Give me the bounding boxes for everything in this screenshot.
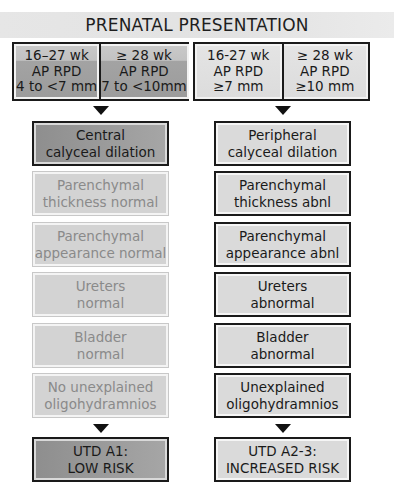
box-parenchymal-thickness-normal: Parenchymal thickness normal <box>32 171 169 216</box>
box-line: Unexplained <box>240 379 324 396</box>
criteria-group-low-risk: 16–27 wk AP RPD 4 to <7 mm ≥ 28 wk AP RP… <box>12 42 189 101</box>
box-line: Central <box>76 127 125 144</box>
cell-line: ≥7 mm <box>213 79 264 95</box>
box-line: thickness normal <box>43 194 158 211</box>
cell-line: AP RPD <box>119 64 169 80</box>
box-line: Ureters <box>76 278 126 295</box>
box-line: calyceal dilation <box>228 144 338 161</box>
box-line: appearance normal <box>35 245 167 262</box>
box-line: Parenchymal <box>239 177 326 194</box>
cell-line: ≥ 28 wk <box>297 48 353 64</box>
box-ureters-abnormal: Ureters abnormal <box>214 272 351 317</box>
page-title: PRENATAL PRESENTATION <box>0 12 394 38</box>
cell-line: 7 to <10mm <box>101 79 187 95</box>
box-line: Parenchymal <box>239 228 326 245</box>
box-parenchymal-thickness-abnl: Parenchymal thickness abnl <box>214 171 351 216</box>
criteria-cell-16-27wk-high: 16-27 wk AP RPD ≥7 mm <box>195 44 282 99</box>
box-unexplained-oligohydramnios: Unexplained oligohydramnios <box>214 373 351 418</box>
box-line: thickness abnl <box>234 194 331 211</box>
cell-line: AP RPD <box>213 64 263 80</box>
arrow-down-icon <box>93 106 109 115</box>
box-line: UTD A2-3: <box>248 443 317 460</box>
box-line: calyceal dilation <box>46 144 156 161</box>
box-no-unexplained-oligohydramnios: No unexplained oligohydramnios <box>32 373 169 418</box>
box-parenchymal-appearance-normal: Parenchymal appearance normal <box>32 222 169 267</box>
box-line: appearance abnl <box>226 245 340 262</box>
box-line: UTD A1: <box>73 443 128 460</box>
criteria-cell-28wk-low: ≥ 28 wk AP RPD 7 to <10mm <box>101 44 189 99</box>
box-line: Parenchymal <box>57 177 144 194</box>
cell-line: ≥10 mm <box>295 79 354 95</box>
box-line: LOW RISK <box>67 460 133 477</box>
box-ureters-normal: Ureters normal <box>32 272 169 317</box>
cell-line: 4 to <7 mm <box>16 79 97 95</box>
box-line: INCREASED RISK <box>226 460 339 477</box>
box-parenchymal-appearance-abnl: Parenchymal appearance abnl <box>214 222 351 267</box>
box-bladder-abnormal: Bladder abnormal <box>214 323 351 368</box>
cell-line: 16–27 wk <box>24 48 88 64</box>
box-line: normal <box>77 346 124 363</box>
box-line: Ureters <box>258 278 308 295</box>
arrow-down-icon <box>93 424 109 433</box>
arrow-down-icon <box>275 106 291 115</box>
cell-line: 16-27 wk <box>207 48 269 64</box>
box-line: abnormal <box>250 346 314 363</box>
box-line: Bladder <box>74 329 126 346</box>
outcome-utd-a2-3-increased-risk: UTD A2-3: INCREASED RISK <box>214 437 351 482</box>
box-line: No unexplained <box>48 379 154 396</box>
outcome-utd-a1-low-risk: UTD A1: LOW RISK <box>32 437 169 482</box>
box-central-calyceal-dilation: Central calyceal dilation <box>32 121 169 166</box>
criteria-cell-16-27wk-low: 16–27 wk AP RPD 4 to <7 mm <box>14 44 99 99</box>
criteria-group-increased-risk: 16-27 wk AP RPD ≥7 mm ≥ 28 wk AP RPD ≥10… <box>193 42 370 101</box>
box-bladder-normal: Bladder normal <box>32 323 169 368</box>
cell-line: AP RPD <box>32 64 82 80</box>
box-line: oligohydramnios <box>226 396 338 413</box>
box-line: Peripheral <box>248 127 316 144</box>
box-line: Parenchymal <box>57 228 144 245</box>
criteria-cell-28wk-high: ≥ 28 wk AP RPD ≥10 mm <box>284 44 369 99</box>
box-line: oligohydramnios <box>44 396 156 413</box>
box-line: Bladder <box>256 329 308 346</box>
box-peripheral-calyceal-dilation: Peripheral calyceal dilation <box>214 121 351 166</box>
cell-line: AP RPD <box>300 64 350 80</box>
box-line: normal <box>77 295 124 312</box>
box-line: abnormal <box>250 295 314 312</box>
cell-line: ≥ 28 wk <box>116 48 172 64</box>
arrow-down-icon <box>275 424 291 433</box>
